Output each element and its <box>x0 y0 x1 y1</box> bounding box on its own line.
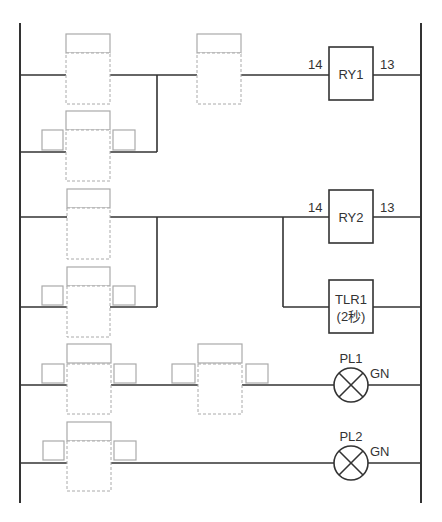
blank-terminal-left[interactable] <box>42 364 64 383</box>
blank-symbol-slot[interactable] <box>67 286 110 337</box>
blank-symbol-slot[interactable] <box>67 364 111 414</box>
timer-time-label: (2秒) <box>337 309 366 324</box>
timer-coil-tlr1: TLR1 (2秒) <box>329 280 373 333</box>
blank-contact-2b[interactable] <box>42 267 135 337</box>
blank-symbol-slot[interactable] <box>197 53 241 104</box>
blank-label-box[interactable] <box>67 267 110 286</box>
blank-terminal-right[interactable] <box>114 441 136 460</box>
pilot-lamp-pl2: PL2 GN <box>334 429 390 480</box>
blank-label-box[interactable] <box>66 111 110 130</box>
lamp-label: PL2 <box>339 429 362 444</box>
blank-terminal-right[interactable] <box>113 130 135 150</box>
rung-2: RY2 14 13 TLR1 (2秒) <box>20 189 421 337</box>
terminal-14-label: 14 <box>308 57 322 72</box>
pilot-lamp-pl1: PL1 GN <box>334 351 390 402</box>
blank-label-box[interactable] <box>197 34 241 53</box>
blank-label-box[interactable] <box>66 34 110 53</box>
rung-4: PL2 GN <box>20 422 421 491</box>
blank-terminal-right[interactable] <box>246 364 268 383</box>
blank-terminal-left[interactable] <box>172 364 195 383</box>
timer-label: TLR1 <box>335 292 367 307</box>
terminal-14-label: 14 <box>308 200 322 215</box>
blank-symbol-slot[interactable] <box>67 208 110 259</box>
coil-label: RY1 <box>338 67 363 82</box>
lamp-label: PL1 <box>339 351 362 366</box>
ladder-diagram: RY1 14 13 RY2 14 13 <box>0 0 442 522</box>
blank-terminal-left[interactable] <box>42 130 63 150</box>
blank-contact-1c[interactable] <box>42 111 135 181</box>
blank-label-box[interactable] <box>67 344 111 363</box>
relay-coil-ry1: RY1 14 13 <box>308 47 394 100</box>
blank-terminal-left[interactable] <box>42 286 63 305</box>
blank-label-box[interactable] <box>67 422 111 441</box>
blank-contact-4a[interactable] <box>43 422 136 491</box>
blank-terminal-right[interactable] <box>114 364 136 383</box>
blank-contact-2a[interactable] <box>67 189 110 259</box>
blank-terminal-right[interactable] <box>113 286 135 305</box>
blank-label-box[interactable] <box>67 189 110 208</box>
blank-contact-3a[interactable] <box>42 344 136 414</box>
blank-symbol-slot[interactable] <box>66 53 110 104</box>
rung-1: RY1 14 13 <box>20 34 421 181</box>
blank-contact-3b[interactable] <box>172 344 268 414</box>
terminal-13-label: 13 <box>380 200 394 215</box>
blank-contact-1b[interactable] <box>197 34 241 104</box>
terminal-13-label: 13 <box>380 57 394 72</box>
blank-symbol-slot[interactable] <box>66 130 110 181</box>
blank-symbol-slot[interactable] <box>198 364 242 414</box>
blank-label-box[interactable] <box>198 344 242 363</box>
lamp-color-label: GN <box>370 444 390 459</box>
blank-terminal-left[interactable] <box>43 441 64 460</box>
rung-3: PL1 GN <box>20 344 421 414</box>
coil-label: RY2 <box>338 210 363 225</box>
blank-symbol-slot[interactable] <box>67 441 111 491</box>
lamp-color-label: GN <box>370 366 390 381</box>
blank-contact-1a[interactable] <box>66 34 110 104</box>
